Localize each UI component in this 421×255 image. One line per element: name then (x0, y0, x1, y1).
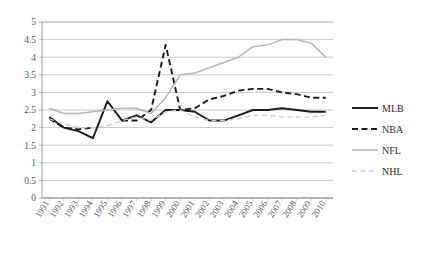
x-tick-label: 2001 (178, 199, 196, 220)
legend-label-mlb: MLB (382, 103, 404, 114)
x-tick-label: 2005 (237, 198, 255, 219)
x-tick-label: 2006 (251, 198, 269, 219)
x-tick-label: 2009 (295, 198, 313, 219)
series-line-mlb (49, 101, 325, 138)
x-tick-label: 1993 (62, 198, 80, 219)
y-axis-tick-labels: 00.511.522.533.544.55 (24, 17, 42, 203)
y-tick-label: 2.5 (24, 105, 36, 115)
clipped-header-text-value: · · · · (28, 0, 145, 4)
chart-legend: MLBNBANFLNHL (352, 103, 404, 177)
y-tick-label: 0.5 (24, 176, 36, 186)
series-line-nfl (49, 40, 325, 114)
x-tick-label: 1998 (135, 198, 153, 219)
legend-label-nba: NBA (382, 124, 404, 135)
x-tick-label: 1994 (77, 198, 95, 219)
y-tick-label: 3.5 (24, 70, 36, 80)
y-tick-label: 5 (31, 17, 36, 27)
line-chart: 00.511.522.533.544.55 199119921993199419… (0, 0, 421, 255)
legend-label-nfl: NFL (382, 145, 401, 156)
x-tick-label: 1997 (120, 198, 138, 219)
x-axis-tick-labels: 1991199219931994199519961997199819992000… (33, 198, 328, 219)
x-tick-label: 2004 (222, 198, 240, 219)
y-tick-label: 2 (31, 123, 36, 133)
y-tick-label: 4.5 (24, 35, 36, 45)
x-tick-label: 2000 (164, 198, 182, 219)
x-tick-label: 2003 (208, 198, 226, 219)
x-tick-label: 1992 (48, 199, 66, 220)
y-tick-label: 1 (31, 158, 36, 168)
x-tick-label: 1999 (149, 198, 167, 219)
y-tick-label: 3 (31, 88, 36, 98)
y-tick-label: 1.5 (24, 141, 36, 151)
x-tick-label: 2010 (309, 198, 327, 219)
x-tick-label: 1995 (91, 198, 109, 219)
y-tick-label: 4 (31, 53, 36, 63)
x-tick-label: 2002 (193, 199, 211, 220)
legend-label-nhl: NHL (382, 166, 403, 177)
x-tick-label: 1996 (106, 198, 124, 219)
chart-container: · · · · 00.511.522.533.544.55 1991199219… (0, 0, 421, 255)
clipped-header-text: · · · · (0, 0, 421, 8)
y-tick-label: 0 (31, 193, 36, 203)
x-tick-label: 2008 (280, 198, 298, 219)
data-series-group (49, 40, 325, 139)
x-tick-label: 2007 (266, 198, 284, 219)
